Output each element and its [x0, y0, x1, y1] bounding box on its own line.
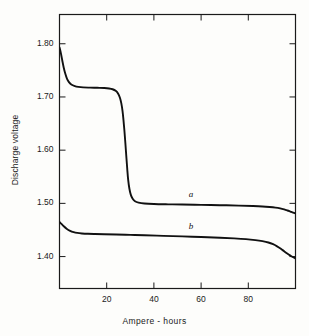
curve-label-a: a [189, 189, 194, 199]
y-tick-label: 1.70 [24, 91, 54, 101]
y-tick-label: 1.80 [24, 38, 54, 48]
x-tick-label: 40 [142, 294, 166, 304]
x-axis-title: Ampere - hours [0, 316, 309, 326]
series-curve-b [60, 222, 296, 258]
x-tick-label: 20 [95, 294, 119, 304]
plot-area [0, 0, 309, 336]
x-tick-label: 60 [189, 294, 213, 304]
x-tick-label: 80 [236, 294, 260, 304]
y-tick-label: 1.50 [24, 197, 54, 207]
y-tick-label: 1.60 [24, 144, 54, 154]
series-curve-a [60, 47, 296, 213]
chart-figure: Discharge voltage Ampere - hours 1.401.5… [0, 0, 309, 336]
plot-frame [60, 15, 296, 289]
y-tick-label: 1.40 [24, 251, 54, 261]
curve-label-b: b [189, 221, 194, 231]
